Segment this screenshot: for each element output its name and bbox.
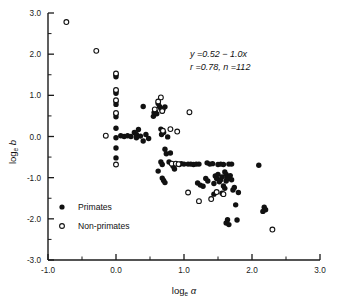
data-point [221, 192, 226, 197]
series-primates [113, 72, 268, 227]
data-point [260, 209, 265, 214]
y-tick-label: 0.0 [30, 133, 42, 142]
x-tick-label: 1.0 [178, 266, 190, 275]
data-point [256, 163, 261, 168]
data-point [168, 150, 173, 155]
data-point [103, 133, 108, 138]
data-point [94, 48, 99, 53]
plot-canvas: 3.02.01.00.0-1.0-2.0-3.0 -1.00.01.02.03.… [0, 0, 340, 302]
data-point [229, 161, 234, 166]
data-point [136, 127, 141, 132]
y-tick-label: 2.0 [30, 50, 42, 59]
legend-label-primates: Primates [78, 202, 112, 212]
y-tick-label: -2.0 [27, 215, 42, 224]
data-point [181, 161, 186, 166]
x-tick-label: 0.0 [110, 266, 122, 275]
x-axis-ticks: -1.00.01.02.03.0 [41, 254, 326, 275]
data-point [114, 98, 119, 103]
y-tick-label: 1.0 [30, 91, 42, 100]
data-point [204, 160, 209, 165]
data-point [155, 168, 160, 173]
data-point [233, 202, 238, 207]
data-point [200, 184, 205, 189]
data-point [226, 222, 231, 227]
data-point [161, 128, 166, 133]
data-point [197, 199, 202, 204]
data-point [175, 129, 180, 134]
y-tick-label: -1.0 [27, 174, 42, 183]
data-point [114, 111, 119, 116]
data-point [141, 138, 146, 143]
data-point [160, 109, 165, 114]
data-point [236, 190, 241, 195]
fit-equation: y =0.52 − 1.0x [189, 49, 248, 59]
y-tick-label: 3.0 [30, 9, 42, 18]
data-point [156, 99, 161, 104]
data-point [113, 145, 118, 150]
x-axis-title-base: log [172, 285, 185, 296]
legend: Primates Non-primates [59, 202, 129, 231]
y-tick-label: -3.0 [27, 256, 42, 265]
legend-label-non-primates: Non-primates [78, 221, 130, 231]
y-axis-title-base: log [7, 151, 18, 164]
data-point [113, 126, 118, 131]
svg-text:loge α: loge α [172, 285, 197, 297]
data-point [222, 186, 227, 191]
data-point [146, 136, 151, 141]
data-point [113, 135, 118, 140]
data-point [114, 71, 119, 76]
data-point [64, 20, 69, 25]
x-tick-label: -1.0 [41, 266, 56, 275]
data-point [165, 134, 170, 139]
data-point [209, 197, 214, 202]
y-axis-title-var: b [7, 140, 18, 145]
data-point [270, 227, 275, 232]
x-tick-label: 3.0 [314, 266, 326, 275]
data-point [113, 155, 118, 160]
data-point [211, 181, 216, 186]
fit-stats: r =0.78, n =112 [190, 62, 250, 72]
data-point [186, 190, 191, 195]
data-point [114, 162, 119, 167]
data-point [168, 127, 173, 132]
x-axis-title-var: α [191, 285, 197, 296]
legend-marker-non-primates [60, 224, 65, 229]
data-point [176, 162, 181, 167]
data-point [232, 185, 237, 190]
data-point [162, 180, 167, 185]
data-point [141, 104, 146, 109]
data-point [196, 161, 201, 166]
svg-text:loge b: loge b [7, 140, 19, 164]
data-point [152, 107, 157, 112]
data-point [187, 110, 192, 115]
data-point [138, 133, 143, 138]
data-point [160, 162, 165, 167]
y-axis-title: loge b [7, 140, 19, 164]
data-point [234, 217, 239, 222]
data-point [214, 190, 219, 195]
scatter-plot-figure: 3.02.01.00.0-1.0-2.0-3.0 -1.00.01.02.03.… [0, 0, 340, 302]
data-point [172, 166, 177, 171]
x-axis-title: loge α [172, 285, 197, 297]
data-point [210, 161, 215, 166]
x-tick-label: 2.0 [246, 266, 258, 275]
legend-marker-primates [59, 204, 64, 209]
data-point [114, 88, 119, 93]
data-point [205, 178, 210, 183]
data-point [221, 162, 226, 167]
y-axis-ticks: 3.02.01.00.0-1.0-2.0-3.0 [27, 9, 54, 265]
fit-annotation: y =0.52 − 1.0x r =0.78, n =112 [189, 49, 250, 72]
data-point [229, 177, 234, 182]
